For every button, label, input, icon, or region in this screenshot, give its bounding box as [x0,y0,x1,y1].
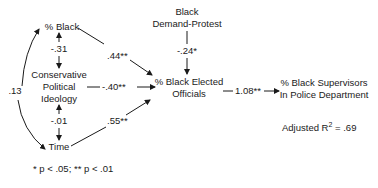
node-ideology-line3: Ideology [41,93,77,104]
node-protest-line1: Black [175,6,198,17]
coef-protest-elected: -.24* [177,45,197,56]
coef-black-elected: .44** [107,50,128,61]
node-ideology-line1: Conservative [31,69,86,80]
node-supervisors-line2: In Police Department [280,89,369,100]
node-time: Time [49,141,70,152]
coef-time-elected: .55** [107,115,128,126]
node-protest-line2: Demand-Protest [152,18,222,29]
node-ideology-line2: Political [43,81,76,92]
node-elected-line2: Officials [172,88,206,99]
coef-black-ideology: -.31 [51,43,67,54]
node-supervisors-line1: % Black Supervisors [280,77,367,88]
node-pct-black: % Black [45,21,80,32]
node-elected-line1: % Black Elected [155,76,224,87]
path-diagram: % Black Conservative Political Ideology … [0,0,378,188]
coef-elected-supervisors: 1.08** [235,85,261,96]
edge-black-elected-a [78,28,104,44]
adjusted-r-squared: Adjusted R2 = .69 [282,121,356,133]
edge-time-elected-a [71,127,106,146]
coef-ideology-time: -.01 [51,115,67,126]
edge-curve-to-time [18,100,45,149]
edge-black-elected-b [130,60,152,75]
edge-time-elected-b [126,100,150,115]
significance-footnote: * p < .05; ** p < .01 [33,163,113,174]
coef-black-time: .13 [8,85,21,96]
coef-ideology-elected: -.40** [102,81,126,92]
